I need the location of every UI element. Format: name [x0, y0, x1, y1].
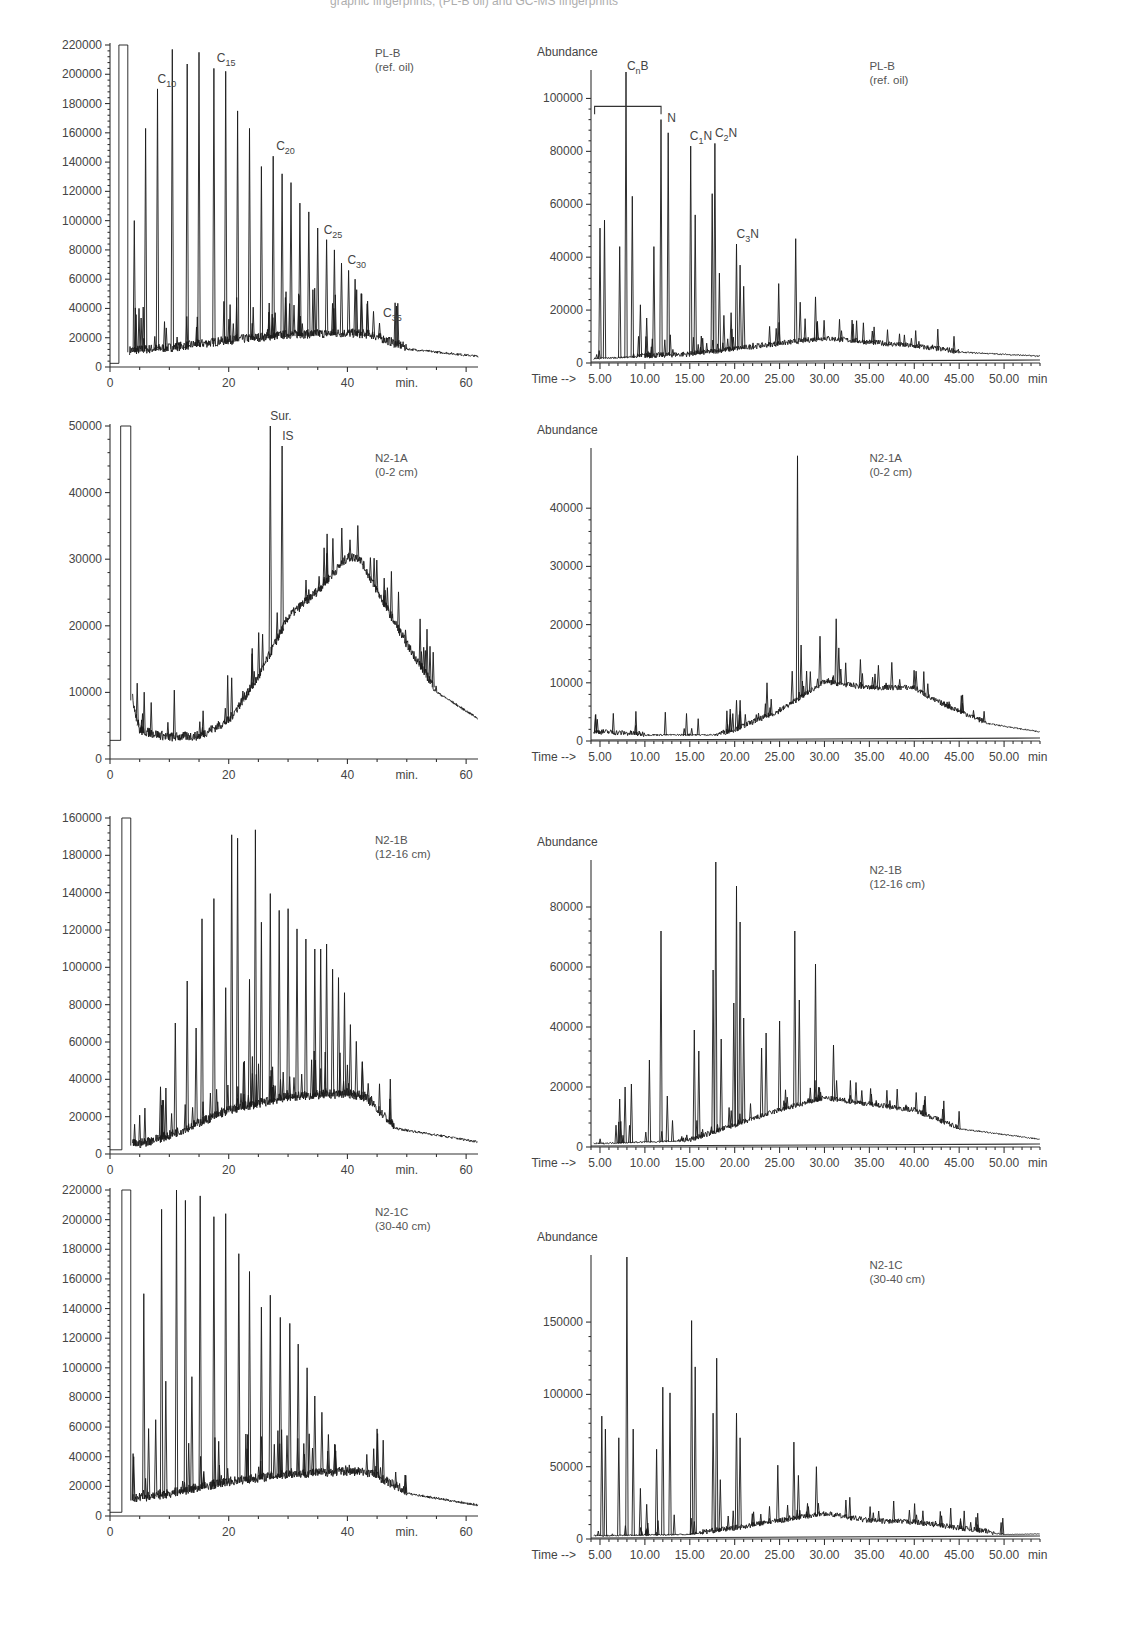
peak — [601, 1416, 603, 1536]
y-tick-label: 100000 — [543, 1387, 583, 1401]
peak — [735, 244, 737, 350]
x-tick-label: 40 — [341, 376, 355, 390]
peak — [714, 143, 716, 352]
peak — [213, 899, 215, 1119]
y-axis-title: Abundance — [537, 1230, 598, 1244]
y-tick-label: 40000 — [550, 501, 584, 515]
peak — [719, 1480, 721, 1531]
x-prefix-label: Time --> — [531, 1156, 576, 1170]
x-tick-label: 40 — [341, 768, 355, 782]
x-tick-label: 35.00 — [854, 372, 884, 386]
x-tick-label: 40.00 — [899, 372, 929, 386]
x-prefix-label: Time --> — [531, 372, 576, 386]
chart-n21b-ms: 020000400006000080000Time -->5.0010.0015… — [531, 835, 1047, 1170]
sample-depth: (ref. oil) — [869, 74, 908, 86]
peak — [201, 919, 203, 1124]
peak — [796, 456, 798, 701]
x-tick-label: 40.00 — [899, 1548, 929, 1562]
x-prefix-label: Time --> — [531, 750, 576, 764]
y-tick-label: 160000 — [62, 126, 102, 140]
peak — [693, 1030, 695, 1140]
y-tick-label: 100000 — [62, 960, 102, 974]
x-tick-label: 20.00 — [720, 750, 750, 764]
peak — [791, 671, 793, 704]
x-tick-label: 60 — [459, 376, 473, 390]
y-tick-label: 220000 — [62, 1183, 102, 1197]
peak — [349, 1025, 351, 1096]
peak-annotation: C25 — [324, 223, 343, 240]
x-tick-label: 45.00 — [944, 372, 974, 386]
peak — [144, 128, 146, 351]
x-tick-label: 20.00 — [720, 1156, 750, 1170]
x-tick-label: 60 — [459, 1163, 473, 1177]
y-tick-label: 40000 — [69, 1072, 103, 1086]
sample-name: PL-B — [375, 47, 401, 59]
peak — [184, 1200, 186, 1492]
y-tick-label: 0 — [576, 1140, 583, 1154]
x-tick-label: 20 — [222, 1163, 236, 1177]
y-tick-label: 60000 — [550, 960, 584, 974]
peak — [156, 89, 158, 350]
y-tick-label: 40000 — [69, 301, 103, 315]
x-tick-label: 5.00 — [588, 1156, 612, 1170]
y-tick-label: 20000 — [69, 619, 103, 633]
peak — [632, 1429, 634, 1535]
y-tick-label: 20000 — [550, 303, 584, 317]
peak — [147, 1429, 149, 1499]
x-tick-label: 45.00 — [944, 1548, 974, 1562]
x-tick-label: 15.00 — [675, 750, 705, 764]
x-tick-label: 0 — [107, 768, 114, 782]
x-unit-label: min. — [395, 1163, 418, 1177]
peak — [143, 1294, 145, 1499]
peak — [355, 1041, 357, 1097]
y-tick-label: 140000 — [62, 1302, 102, 1316]
peak — [739, 1438, 741, 1528]
peak — [599, 228, 601, 359]
peak — [321, 1412, 323, 1474]
peak — [604, 1429, 606, 1536]
chromatogram-trace — [594, 1096, 1040, 1144]
x-tick-label: 25.00 — [765, 750, 795, 764]
x-tick-label: 50.00 — [989, 1156, 1019, 1170]
x-tick-label: 20.00 — [720, 372, 750, 386]
y-tick-label: 40000 — [550, 1020, 584, 1034]
x-tick-label: 40 — [341, 1163, 355, 1177]
peak — [660, 931, 662, 1142]
peak — [175, 1190, 177, 1494]
x-tick-label: 20 — [222, 1525, 236, 1539]
peak — [694, 215, 696, 355]
peak — [325, 240, 327, 336]
peak — [739, 265, 741, 349]
peak — [819, 636, 821, 686]
peak — [308, 212, 310, 336]
y-tick-label: 200000 — [62, 1213, 102, 1227]
chart-n21c-ms: 050000100000150000Time -->5.0010.0015.00… — [531, 1230, 1047, 1562]
x-tick-label: 30.00 — [809, 1156, 839, 1170]
x-tick-label: 30.00 — [809, 750, 839, 764]
x-prefix-label: Time --> — [531, 1548, 576, 1562]
y-tick-label: 10000 — [69, 685, 103, 699]
y-tick-label: 0 — [95, 360, 102, 374]
peak — [269, 426, 271, 655]
y-tick-label: 20000 — [69, 1110, 103, 1124]
sample-depth: (0-2 cm) — [869, 466, 912, 478]
y-tick-label: 80000 — [69, 243, 103, 257]
peak-annotation: C15 — [217, 51, 236, 68]
y-tick-label: 30000 — [550, 559, 584, 573]
peak — [272, 156, 274, 338]
y-tick-label: 180000 — [62, 1242, 102, 1256]
y-tick-label: 140000 — [62, 886, 102, 900]
peak — [718, 273, 720, 352]
peak — [877, 665, 879, 688]
peak — [660, 120, 662, 357]
peak-annotation: C35 — [383, 306, 402, 323]
y-tick-label: 20000 — [550, 618, 584, 632]
peak — [626, 1257, 628, 1536]
peak — [260, 167, 262, 339]
peak — [213, 68, 215, 344]
peak — [625, 72, 627, 358]
peak — [305, 939, 307, 1098]
peak — [186, 64, 188, 347]
peak — [306, 1368, 308, 1475]
y-tick-label: 100000 — [62, 1361, 102, 1375]
